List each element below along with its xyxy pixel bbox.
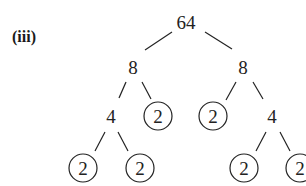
node-2a: 2	[153, 106, 163, 127]
node-8-left: 8	[128, 57, 138, 78]
node-2d: 2	[135, 158, 145, 179]
edge-64-8L	[145, 32, 172, 50]
node-2e: 2	[239, 158, 249, 179]
node-64: 64	[177, 12, 197, 33]
edge-8L-4L	[119, 82, 126, 98]
edge-8R-2b	[226, 82, 236, 100]
node-2f: 2	[295, 158, 305, 179]
tree-nodes: 64 8 8 4 2 2 4 2 2 2 2	[78, 12, 305, 179]
node-2b: 2	[208, 106, 218, 127]
edge-4L-2d	[118, 132, 128, 151]
edge-64-8R	[205, 32, 232, 49]
node-8-right: 8	[238, 57, 248, 78]
edge-8R-4R	[253, 82, 263, 99]
edge-4L-2c	[95, 132, 105, 151]
tree-edges	[95, 32, 290, 151]
edge-4R-2e	[256, 132, 266, 151]
edge-8L-2a	[142, 82, 151, 99]
edge-4R-2f	[280, 132, 290, 151]
factor-tree: 64 8 8 4 2 2 4 2 2 2 2	[0, 0, 306, 186]
node-4-right: 4	[267, 106, 277, 127]
node-2c: 2	[78, 158, 88, 179]
node-4-left: 4	[106, 106, 116, 127]
